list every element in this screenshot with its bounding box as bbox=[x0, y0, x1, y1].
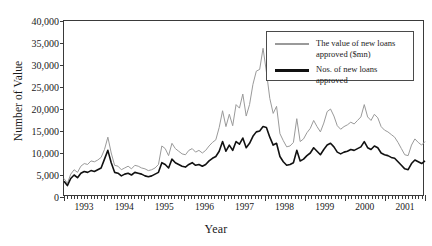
x-tick-label: 1994 bbox=[115, 202, 134, 212]
chart-figure: Number of Value 05,00010,00015,00020,000… bbox=[0, 0, 432, 246]
legend-swatch-number-icon bbox=[275, 69, 309, 72]
x-tick-label: 1996 bbox=[195, 202, 214, 212]
x-tick-label: 1997 bbox=[235, 202, 254, 212]
legend-label-value: The value of new loans approved ($mn) bbox=[316, 38, 395, 59]
legend-label-value-line1: The value of new loans bbox=[316, 38, 395, 48]
series-line-number bbox=[64, 127, 425, 186]
chart-legend: The value of new loans approved ($mn) No… bbox=[266, 31, 414, 81]
x-tick-label: 2000 bbox=[355, 202, 374, 212]
plot-area: 05,00010,00015,00020,00025,00030,00035,0… bbox=[63, 20, 424, 196]
x-tick-label: 1993 bbox=[75, 202, 94, 212]
legend-swatch-value-icon bbox=[275, 43, 309, 45]
x-axis-label: Year bbox=[0, 222, 432, 237]
legend-label-number: Nos. of new loans approved bbox=[316, 64, 408, 85]
x-tick-label: 1999 bbox=[315, 202, 334, 212]
x-tick-major bbox=[425, 195, 426, 201]
x-tick-label: 1995 bbox=[155, 202, 174, 212]
cut-off-title bbox=[8, 0, 424, 6]
x-tick-label: 2001 bbox=[395, 202, 414, 212]
y-axis-label: Number of Value bbox=[12, 31, 24, 171]
x-tick-label: 1998 bbox=[275, 202, 294, 212]
legend-item-value: The value of new loans approved ($mn) bbox=[272, 38, 408, 59]
legend-label-value-line2: approved ($mn) bbox=[316, 49, 371, 59]
legend-item-number: Nos. of new loans approved bbox=[272, 64, 408, 85]
